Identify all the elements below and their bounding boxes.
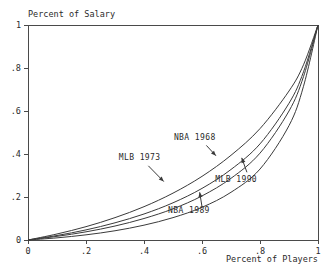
series-label-mlb-1990: MLB 1990	[215, 175, 257, 184]
series-label-nba-1968: NBA 1968	[174, 133, 216, 142]
series-label-mlb-1973: MLB 1973	[119, 153, 161, 162]
y-tick-label: .4	[11, 149, 21, 159]
y-tick-label: 0	[16, 235, 21, 245]
x-axis-title: Percent of Players	[226, 254, 318, 264]
x-tick-label: .2	[81, 246, 91, 256]
y-tick-label: .2	[11, 192, 21, 202]
x-tick-label: 0	[25, 246, 30, 256]
chart-title: Percent of Salary	[28, 9, 115, 19]
annotation-arrowhead	[198, 192, 202, 197]
y-tick-label: .6	[11, 106, 21, 116]
x-tick-label: .4	[139, 246, 149, 256]
lorenz-curve-chart: Percent of Salary 0.2.4.6.81 0.2.4.6.81 …	[0, 0, 335, 271]
series-label-nba-1989: NBA 1989	[168, 206, 210, 215]
y-tick-label: 1	[16, 20, 21, 30]
y-tick-label: .8	[11, 63, 21, 73]
y-tick-labels: 0.2.4.6.81	[11, 20, 21, 245]
chart-screenshot: Percent of Salary 0.2.4.6.81 0.2.4.6.81 …	[0, 0, 335, 271]
x-tick-label: .6	[197, 246, 207, 256]
